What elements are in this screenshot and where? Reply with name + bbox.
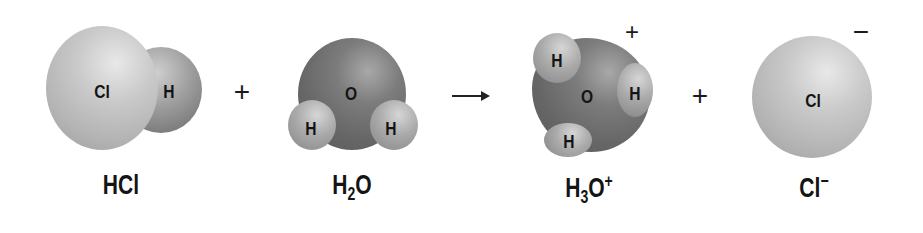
hcl-h-label: H — [163, 82, 174, 101]
hydronium-h-label-bottom: H — [563, 132, 574, 151]
hydronium-h-label-right: H — [629, 84, 640, 103]
water-h-label-right: H — [385, 119, 396, 138]
chloride-charge: − — [853, 18, 869, 46]
hcl-formula-text: HCl — [103, 170, 139, 200]
hydronium-h-label-top: H — [551, 51, 562, 70]
reaction-arrow — [452, 95, 488, 97]
hydronium-formula-subscript: 3 — [580, 187, 588, 207]
water-h-label-left: H — [305, 119, 316, 138]
hydronium-formula: H3O+ — [565, 172, 613, 206]
hcl-cl-label: Cl — [94, 82, 110, 101]
chloride-formula-superscript: − — [820, 171, 828, 191]
chloride-formula-cl: Cl — [799, 173, 820, 203]
water-formula: H2O — [332, 172, 371, 203]
hydronium-formula-superscript: + — [605, 171, 613, 191]
hydronium-o-label: O — [581, 87, 593, 106]
hydronium-formula-o: O — [588, 173, 604, 203]
water-formula-o: O — [355, 170, 371, 200]
water-formula-subscript: 2 — [348, 184, 356, 204]
water-formula-h: H — [332, 170, 347, 200]
chloride-formula: Cl− — [799, 172, 828, 202]
water-o-label: O — [345, 84, 357, 103]
hydronium-formula-h: H — [565, 173, 580, 203]
chloride-cl-label: Cl — [805, 91, 821, 110]
plus-operator-1: + — [234, 78, 250, 106]
hydronium-charge: + — [625, 20, 639, 44]
plus-operator-2: + — [692, 82, 708, 110]
hcl-formula: HCl — [103, 172, 139, 199]
